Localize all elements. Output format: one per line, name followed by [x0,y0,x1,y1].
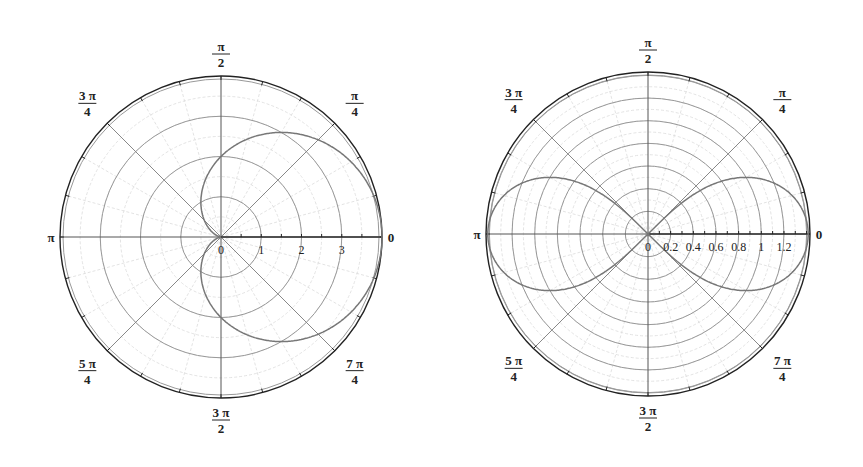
radial-tick-label: 0.4 [686,240,701,254]
radial-tick-label: 0.8 [731,240,746,254]
svg-text:2: 2 [218,55,225,70]
angle-label-pi-4: π4 [346,88,364,119]
minor-grid-spoke [606,234,648,390]
angle-label-7pi-4: 7 π4 [346,356,364,387]
svg-text:4: 4 [84,104,91,119]
svg-text:π: π [351,88,358,103]
svg-text:π: π [473,227,480,242]
polar-chart-2: 00.20.40.60.811.20π4π23 π4π5 π43 π27 π4 [473,35,822,434]
svg-text:4: 4 [779,101,786,116]
angle-label-pi-2: π2 [639,35,657,66]
radial-tick-label: 1 [758,240,764,254]
radial-tick-label: 0 [218,243,224,257]
radial-tick-label: 1 [258,243,264,257]
svg-text:π: π [47,230,54,245]
minor-grid-spoke [648,192,804,234]
radial-tick-label: 0 [645,240,651,254]
svg-text:4: 4 [351,104,358,119]
polar-chart-1: 01230π4π23 π4π5 π43 π27 π4 [47,39,394,436]
svg-text:0: 0 [816,227,823,242]
svg-text:4: 4 [351,372,358,387]
svg-text:5 π: 5 π [79,356,96,371]
angle-label-0: 0 [816,227,823,242]
svg-text:0: 0 [388,230,395,245]
svg-text:π: π [217,39,224,54]
angle-label-3pi-4: 3 π4 [505,85,523,116]
svg-text:3 π: 3 π [640,403,657,418]
svg-text:4: 4 [84,372,91,387]
radial-tick-label: 0.2 [663,240,678,254]
angle-label-3pi-4: 3 π4 [78,88,96,119]
svg-text:7 π: 7 π [346,356,363,371]
polar-plots: 01230π4π23 π4π5 π43 π27 π400.20.40.60.81… [0,0,863,467]
radial-tick-label: 3 [339,243,345,257]
svg-text:4: 4 [779,369,786,384]
svg-text:5 π: 5 π [505,353,522,368]
angle-label-3pi-2: 3 π2 [639,403,657,434]
svg-text:3 π: 3 π [213,405,230,420]
svg-text:π: π [779,85,786,100]
radial-tick-label: 1.2 [776,240,791,254]
minor-grid-spoke [492,192,648,234]
angle-label-7pi-4: 7 π4 [773,353,791,384]
svg-text:7 π: 7 π [774,353,791,368]
svg-text:π: π [644,35,651,50]
angle-label-0: 0 [388,230,395,245]
svg-text:2: 2 [645,419,652,434]
minor-grid-spoke [492,234,648,276]
radial-tick-label: 0.6 [708,240,723,254]
radial-tick-label: 2 [299,243,305,257]
angle-label-5pi-4: 5 π4 [505,353,523,384]
svg-text:2: 2 [218,421,225,436]
angle-label-pi: π [473,227,480,242]
minor-grid-spoke [648,78,690,234]
minor-grid-spoke [606,78,648,234]
svg-text:3 π: 3 π [505,85,522,100]
angle-label-3pi-2: 3 π2 [212,405,230,436]
angle-label-5pi-4: 5 π4 [78,356,96,387]
angle-label-pi-4: π4 [773,85,791,116]
angle-label-pi: π [47,230,54,245]
angle-label-pi-2: π2 [212,39,230,70]
svg-text:3 π: 3 π [79,88,96,103]
minor-grid-spoke [648,234,690,390]
svg-text:4: 4 [510,101,517,116]
svg-text:4: 4 [510,369,517,384]
svg-text:2: 2 [645,51,652,66]
